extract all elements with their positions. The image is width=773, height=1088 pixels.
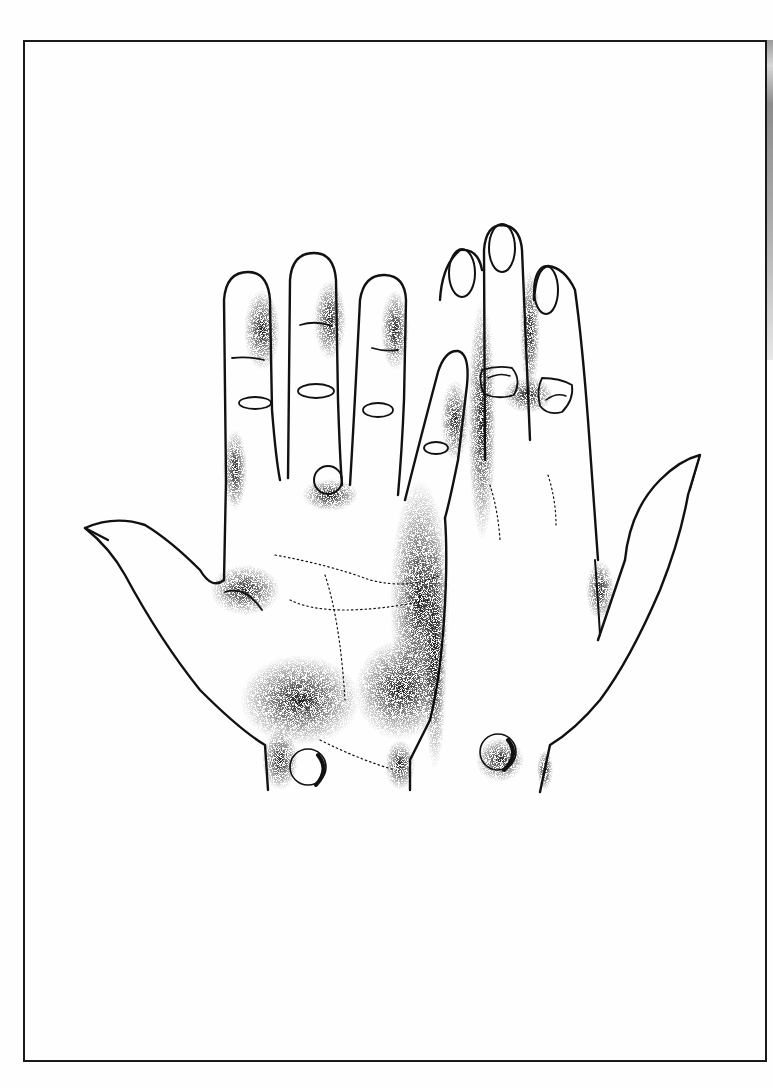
right-index-nail: [449, 249, 475, 297]
left-thumb: [85, 480, 268, 790]
hands-illustration: [0, 0, 773, 1088]
left-hand-palm-view: [85, 253, 469, 790]
right-thumbnail-edge: [690, 455, 700, 490]
right-thumb: [540, 455, 700, 792]
scanned-page: [0, 0, 773, 1088]
right-ring-finger: [534, 266, 598, 560]
left-wrist-nodule-shadow: [316, 755, 324, 785]
right-hand-shading: [423, 270, 614, 790]
right-ring-nail: [534, 266, 558, 314]
right-dorsal-tendons: [490, 475, 556, 540]
right-hand-dorsal-view: [423, 224, 700, 792]
right-middle-nail: [489, 224, 515, 272]
